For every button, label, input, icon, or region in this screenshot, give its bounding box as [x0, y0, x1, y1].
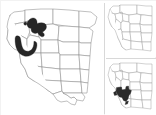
map-svg-bottom-right — [105, 59, 156, 115]
map-svg-top-right — [105, 1, 156, 57]
figure-container — [0, 0, 156, 115]
state-outlines-bottom-right — [108, 63, 152, 109]
state-outlines-main — [7, 9, 97, 105]
western-us-map-large[interactable] — [1, 1, 104, 115]
western-us-map-inset-top[interactable] — [105, 1, 156, 57]
western-us-map-inset-bottom[interactable] — [105, 59, 156, 115]
map-svg-main — [1, 1, 104, 115]
state-outlines-top-right — [108, 5, 152, 51]
